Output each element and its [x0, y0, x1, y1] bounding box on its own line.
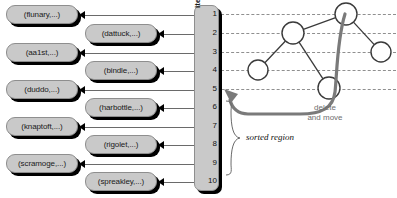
item-box-label: (spreakley,...): [98, 178, 144, 186]
item-box-7[interactable]: (knaptoft,...): [6, 117, 78, 136]
delete-and-move-label: delete and move: [290, 103, 360, 123]
item-box-label: (flunary,...): [24, 11, 60, 19]
items-column-caption: items: [193, 0, 202, 8]
item-box-label: (rigolet,...): [104, 141, 139, 149]
connector-line-2: [164, 34, 194, 35]
row-number-7: 7: [203, 122, 217, 130]
graph-edge-n2-n5: [299, 42, 323, 79]
item-box-label: (aa1st,...): [26, 49, 59, 57]
row-number-1: 1: [203, 10, 217, 18]
delete-and-move-arrow: [224, 14, 345, 114]
connector-arrowhead-3: [79, 49, 85, 57]
connector-line-3: [85, 53, 194, 54]
connector-arrowhead-5: [79, 86, 85, 94]
item-box-label: (harbottle,...): [99, 104, 143, 112]
connector-arrowhead-1: [79, 11, 85, 19]
item-box-2[interactable]: (dattuck,...): [85, 24, 157, 43]
delete-label-line2: and move: [290, 113, 360, 123]
item-box-6[interactable]: (harbottle,...): [85, 98, 157, 117]
sorted-region-label: sorted region: [246, 132, 294, 142]
row-number-3: 3: [203, 48, 217, 56]
item-box-label: (duddo,...): [24, 86, 59, 94]
connector-line-10: [164, 182, 194, 183]
guide-line-row-5: [221, 89, 396, 90]
connector-line-8: [164, 145, 194, 146]
connector-arrowhead-4: [158, 67, 164, 75]
row-number-4: 4: [203, 66, 217, 74]
connector-arrowhead-10: [158, 178, 164, 186]
connector-arrowhead-9: [79, 160, 85, 168]
graph-edge-n2-n1: [303, 18, 335, 30]
connector-line-1: [85, 15, 194, 16]
graph-node-n5[interactable]: [318, 77, 340, 99]
row-number-10: 10: [203, 177, 217, 185]
item-box-8[interactable]: (rigolet,...): [85, 135, 157, 154]
connector-line-9: [85, 164, 194, 165]
item-box-1[interactable]: (flunary,...): [6, 5, 78, 24]
guide-line-row-1: [221, 14, 396, 15]
guide-line-row-3: [221, 52, 396, 53]
item-box-4[interactable]: (bindle,...): [85, 61, 157, 80]
connector-line-4: [164, 71, 194, 72]
graph-nodes: [248, 3, 391, 99]
connector-arrowhead-8: [158, 141, 164, 149]
row-number-5: 5: [203, 85, 217, 93]
connector-line-5: [85, 90, 194, 91]
connector-arrowhead-2: [158, 30, 164, 38]
delete-label-line1: delete: [290, 103, 360, 113]
diagram-canvas: (flunary,...)(dattuck,...)(aa1st,...)(bi…: [0, 0, 397, 198]
item-box-9[interactable]: (scramoge,...): [6, 154, 78, 173]
item-box-5[interactable]: (duddo,...): [6, 80, 78, 99]
connector-arrowhead-7: [79, 123, 85, 131]
row-number-8: 8: [203, 140, 217, 148]
row-number-9: 9: [203, 159, 217, 167]
item-box-10[interactable]: (spreakley,...): [85, 172, 157, 191]
item-box-label: (scramoge,...): [18, 160, 66, 168]
sorted-region-brace: [226, 101, 240, 175]
row-number-2: 2: [203, 29, 217, 37]
connector-line-7: [85, 127, 194, 128]
connector-line-6: [164, 108, 194, 109]
item-box-label: (dattuck,...): [102, 30, 141, 38]
item-box-label: (bindle,...): [104, 67, 138, 75]
row-number-6: 6: [203, 103, 217, 111]
item-box-label: (knaptoft,...): [21, 123, 62, 131]
guide-line-row-4: [221, 70, 396, 71]
item-box-3[interactable]: (aa1st,...): [6, 43, 78, 62]
guide-line-row-2: [221, 33, 396, 34]
connector-arrowhead-6: [158, 104, 164, 112]
